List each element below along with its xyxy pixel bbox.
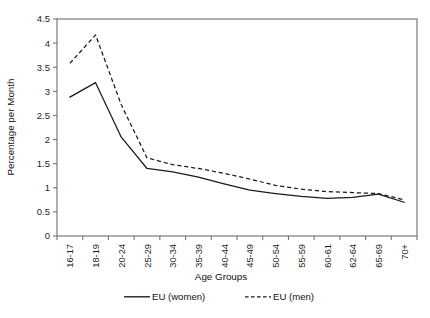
x-tick-label: 30-34 (168, 244, 178, 268)
y-tick-label: 2 (45, 134, 50, 145)
y-tick-label: 1 (45, 182, 50, 193)
y-axis-ticks: 00.511.522.533.544.5 (37, 13, 57, 241)
y-tick-label: 0 (45, 230, 50, 241)
x-tick-label: 25-29 (143, 244, 153, 268)
x-tick-label: 60-61 (323, 244, 333, 268)
x-axis-title: Age Groups (195, 271, 247, 282)
y-axis-title: Percentage per Month (5, 79, 16, 176)
series-layer (70, 35, 404, 202)
x-tick-label: 50-54 (271, 244, 281, 268)
y-tick-label: 3 (45, 86, 50, 97)
y-tick-label: 3.5 (37, 62, 50, 73)
x-tick-label: 45-49 (245, 244, 255, 268)
series-line-eu-men (70, 35, 404, 200)
x-tick-label: 55-59 (297, 244, 307, 268)
y-tick-label: 1.5 (37, 158, 50, 169)
x-tick-label: 62-64 (348, 244, 358, 268)
chart-canvas: 00.511.522.533.544.5 16-1718-1920-2425-2… (0, 0, 430, 318)
plot-frame (57, 19, 417, 236)
x-tick-label: 16-17 (65, 244, 75, 268)
plot-border (57, 19, 417, 236)
line-chart: 00.511.522.533.544.5 16-1718-1920-2425-2… (0, 0, 430, 318)
legend-label-men: EU (men) (273, 291, 314, 302)
y-tick-label: 4.5 (37, 13, 50, 24)
y-tick-label: 4 (45, 38, 50, 49)
chart-legend: EU (women)EU (men) (124, 291, 314, 302)
x-tick-label: 65-69 (374, 244, 384, 268)
x-tick-label: 35-39 (194, 244, 204, 268)
x-tick-label: 18-19 (91, 244, 101, 268)
x-tick-label: 20-24 (117, 244, 127, 268)
x-tick-label: 70+ (400, 244, 410, 260)
legend-label-women: EU (women) (152, 291, 205, 302)
y-tick-label: 0.5 (37, 206, 50, 217)
x-axis-ticks: 16-1718-1920-2425-2930-3435-3940-4445-49… (57, 236, 417, 268)
x-tick-label: 40-44 (220, 244, 230, 268)
y-tick-label: 2.5 (37, 110, 50, 121)
